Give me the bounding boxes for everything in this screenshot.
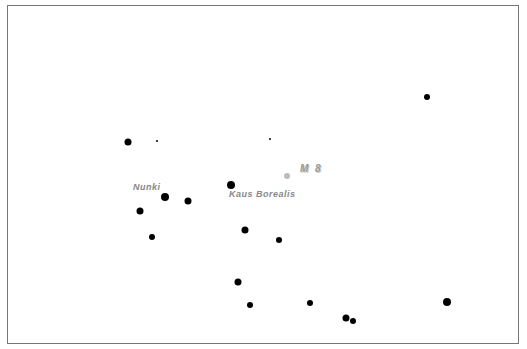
label-nunki: Nunki — [133, 182, 161, 192]
star-marker — [185, 198, 192, 205]
star-marker — [227, 181, 235, 189]
star-marker — [424, 94, 430, 100]
star-marker — [161, 193, 169, 201]
deep-sky-object-marker — [284, 173, 290, 179]
star-marker — [269, 138, 271, 140]
star-marker — [242, 227, 249, 234]
star-chart-frame — [7, 5, 519, 344]
star-marker — [343, 315, 350, 322]
label-m8: M 8 — [300, 163, 323, 174]
star-marker — [125, 139, 132, 146]
star-marker — [137, 208, 144, 215]
star-marker — [443, 298, 451, 306]
star-marker — [350, 318, 356, 324]
star-marker — [276, 237, 282, 243]
label-kaus-borealis: Kaus Borealis — [229, 189, 296, 199]
star-marker — [247, 302, 253, 308]
star-marker — [235, 279, 242, 286]
star-marker — [307, 300, 313, 306]
star-marker — [156, 140, 158, 142]
star-marker — [149, 234, 155, 240]
